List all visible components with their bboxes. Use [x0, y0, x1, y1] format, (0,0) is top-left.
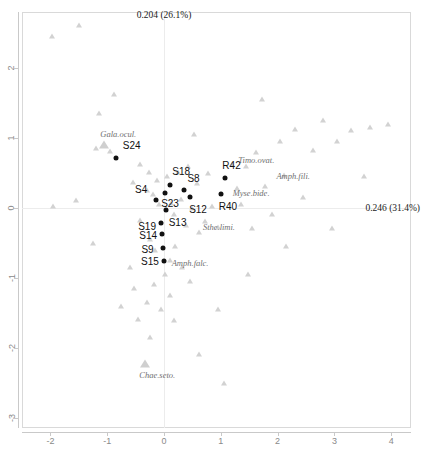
species-triangle-marker: [127, 264, 133, 269]
site-label: S13: [169, 217, 187, 228]
x-tick-label: 4: [389, 436, 394, 446]
site-point-marker: [223, 175, 228, 180]
site-point-marker: [162, 259, 167, 264]
horizontal-zero-axis: [22, 208, 411, 209]
species-triangle-marker: [249, 226, 255, 231]
species-triangle-marker: [320, 117, 326, 122]
y-axis-inertia-caption: 0.204 (26.1%): [137, 10, 192, 20]
species-label: Amph.fili.: [276, 171, 310, 181]
species-triangle-marker: [131, 285, 137, 290]
species-triangle-marker: [172, 243, 178, 248]
species-triangle-marker: [215, 306, 221, 311]
species-triangle-marker: [171, 212, 177, 217]
species-triangle-marker: [118, 304, 124, 309]
site-label: S9: [141, 244, 153, 255]
site-label: S24: [123, 140, 141, 151]
species-triangle-marker: [269, 212, 275, 217]
species-triangle-marker: [329, 226, 335, 231]
site-point-marker: [218, 192, 223, 197]
species-triangle-marker: [96, 110, 102, 115]
site-point-marker: [113, 155, 118, 160]
site-label: R40: [219, 201, 237, 212]
species-triangle-marker: [209, 203, 215, 208]
species-triangle-marker: [76, 23, 82, 28]
site-point-marker: [168, 182, 173, 187]
species-label: Myse.bide.: [233, 188, 270, 198]
x-axis-spine: [22, 432, 411, 433]
species-triangle-marker: [164, 173, 170, 178]
y-tick-mark: [14, 138, 18, 139]
x-tick-mark: [164, 432, 165, 436]
site-point-marker: [188, 194, 193, 199]
x-tick-label: 3: [332, 436, 337, 446]
vertical-zero-axis: [164, 12, 165, 428]
plot-frame: [22, 12, 411, 428]
ordination-plot: -2-101234210-1-2-3 Gala.ocul.Timo.ovat.A…: [0, 0, 422, 466]
species-triangle-marker: [292, 126, 298, 131]
site-point-marker: [163, 208, 168, 213]
species-triangle-marker: [367, 124, 373, 129]
y-tick-mark: [14, 68, 18, 69]
y-tick-mark: [14, 418, 18, 419]
species-triangle-marker: [196, 352, 202, 357]
species-triangle-marker: [283, 243, 289, 248]
x-tick-mark: [278, 432, 279, 436]
site-point-marker: [159, 221, 164, 226]
species-triangle-marker: [73, 198, 79, 203]
x-tick-label: -1: [103, 436, 111, 446]
species-triangle-marker: [111, 91, 117, 96]
species-triangle-marker: [238, 201, 244, 206]
species-triangle-marker: [191, 131, 197, 136]
species-triangle-marker: [300, 194, 306, 199]
species-triangle-marker: [93, 145, 99, 150]
species-triangle-marker: [171, 318, 177, 323]
species-triangle-marker: [140, 359, 150, 367]
species-triangle-marker: [147, 334, 153, 339]
species-triangle-marker: [151, 282, 157, 287]
site-label: S12: [189, 204, 207, 215]
species-triangle-marker: [259, 96, 265, 101]
species-triangle-marker: [135, 317, 141, 322]
species-label: Gala.ocul.: [100, 129, 136, 139]
x-axis-inertia-caption: 0.246 (31.4%): [365, 203, 420, 213]
species-triangle-marker: [99, 141, 109, 149]
species-triangle-marker: [310, 147, 316, 152]
site-point-marker: [182, 187, 187, 192]
site-label: S4: [135, 184, 147, 195]
site-point-marker: [154, 197, 159, 202]
species-triangle-marker: [144, 299, 150, 304]
species-triangle-marker: [49, 33, 55, 38]
x-tick-label: 1: [218, 436, 223, 446]
species-triangle-marker: [221, 381, 227, 386]
species-triangle-marker: [146, 170, 152, 175]
species-triangle-marker: [167, 292, 173, 297]
site-point-marker: [163, 190, 168, 195]
x-tick-mark: [391, 432, 392, 436]
x-tick-label: 2: [275, 436, 280, 446]
x-tick-label: -2: [46, 436, 54, 446]
species-triangle-marker: [137, 161, 143, 166]
species-triangle-marker: [50, 203, 56, 208]
x-tick-label: 0: [161, 436, 166, 446]
site-label: S8: [187, 173, 199, 184]
species-triangle-marker: [187, 278, 193, 283]
species-triangle-marker: [334, 138, 340, 143]
species-triangle-marker: [158, 306, 164, 311]
x-tick-mark: [334, 432, 335, 436]
site-label: S15: [141, 256, 159, 267]
species-label: Chae.seto.: [139, 370, 175, 380]
species-triangle-marker: [385, 122, 391, 127]
species-triangle-marker: [361, 173, 367, 178]
species-label: Timo.ovat.: [238, 155, 274, 165]
site-label: S14: [139, 230, 157, 241]
site-point-marker: [161, 245, 166, 250]
site-point-marker: [160, 231, 165, 236]
species-label: Sthe.limi.: [203, 222, 235, 232]
species-triangle-marker: [196, 229, 202, 234]
y-axis-spine: [18, 12, 19, 428]
y-tick-mark: [14, 208, 18, 209]
species-triangle-marker: [245, 271, 251, 276]
x-tick-mark: [221, 432, 222, 436]
species-triangle-marker: [253, 150, 259, 155]
site-label: R42: [222, 160, 240, 171]
